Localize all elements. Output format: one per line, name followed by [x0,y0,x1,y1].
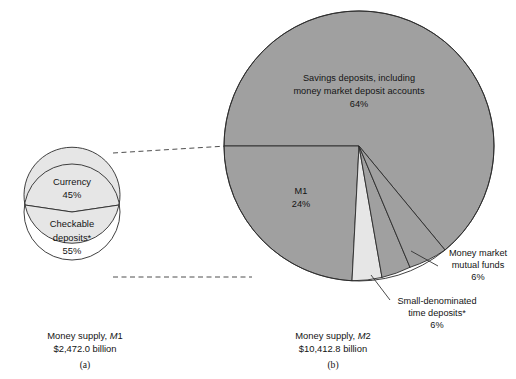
caption-right-suffix: 2 [365,330,370,341]
caption-right-panel-letter: (b) [327,359,338,371]
m1-pie-chart: Currency 45% Checkable deposits* 55% [24,147,120,260]
label-checkable-deposits-line1: Checkable [50,218,94,229]
label-savings-deposits-line2: money market deposit accounts [293,86,425,96]
label-m1: M1 [295,186,308,196]
callout-small-time-line1: Small-denominated [397,296,476,306]
label-m1-percent: 24% [292,199,311,209]
label-checkable-deposits-percent: 55% [63,245,82,256]
pie-chart-figure: Savings deposits, including money market… [0,0,516,379]
label-savings-deposits-percent: 64% [350,99,369,109]
caption-right-line1: Money supply, M2 [295,330,370,341]
caption-left-line1: Money supply, M1 [47,330,122,341]
caption-left-line2: $2,472.0 billion [53,343,116,354]
m2-pie-chart: Savings deposits, including money market… [224,11,494,281]
figure-canvas: Savings deposits, including money market… [0,0,516,379]
callout-small-time-percent: 6% [430,320,443,330]
caption-left-prefix: Money supply, [47,330,109,341]
caption-right-prefix: Money supply, [295,330,357,341]
callout-small-time-line2: time deposits* [408,308,466,318]
caption-right-italic: M [358,330,366,341]
caption-right-line2: $10,412.8 billion [299,343,367,354]
callout-mmmf-line2: mutual funds [452,260,505,270]
label-currency: Currency [53,176,91,187]
caption-left-panel-letter: (a) [80,359,91,371]
callout-mmmf-line1: Money market [449,248,508,258]
connector-line-top [113,145,243,153]
leader-line-small-time-deposits [371,275,390,300]
caption-right: Money supply, M2 $10,412.8 billion (b) [295,330,370,371]
pie-slice-m1[interactable] [224,146,359,281]
caption-left-suffix: 1 [117,330,122,341]
label-currency-percent: 45% [63,189,82,200]
callout-mmmf-percent: 6% [471,272,484,282]
caption-left-italic: M [110,330,118,341]
label-checkable-deposits-line2: deposits* [53,232,92,243]
caption-left: Money supply, M1 $2,472.0 billion (a) [47,330,122,371]
label-savings-deposits-line1: Savings deposits, including [303,73,415,83]
